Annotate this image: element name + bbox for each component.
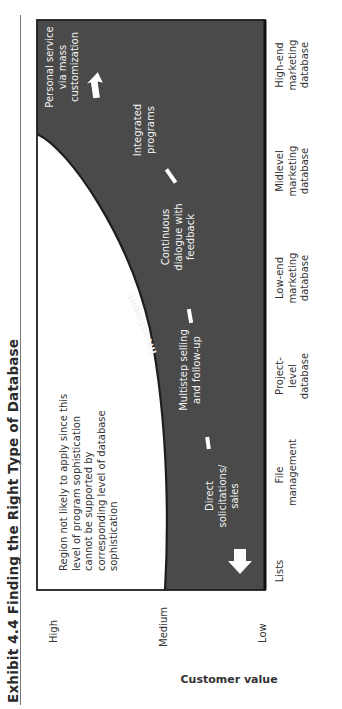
x-tick-lists: Lists <box>274 551 287 591</box>
program-personal-service: Personal service via mass customization <box>44 22 82 112</box>
x-tick-midlevel: Midlevel marketing database <box>274 143 312 199</box>
unlikely-region-note: Region not likely to apply since this le… <box>58 381 121 571</box>
y-tick-high: High <box>48 620 59 643</box>
y-tick-low: Low <box>257 623 268 643</box>
x-tick-low-end: Low-end marketing database <box>274 250 312 306</box>
program-direct-solicitations: Direct solicitations/ sales <box>204 451 242 541</box>
program-multistep-selling: Multistep selling and follow-up <box>178 327 203 413</box>
program-integrated: Integrated programs <box>132 100 157 160</box>
x-tick-project-level: Project-level database <box>274 348 312 404</box>
y-axis-title: Customer value <box>181 673 277 686</box>
x-tick-high-end: High-end marketing database <box>274 37 312 93</box>
rotated-exhibit: Exhibit 4.4 Finding the Right Type of Da… <box>0 0 342 709</box>
y-tick-medium: Medium <box>158 607 169 647</box>
program-continuous-dialogue: Continuous dialogue with feedback <box>160 197 198 277</box>
x-tick-file-management: File management <box>274 444 299 506</box>
